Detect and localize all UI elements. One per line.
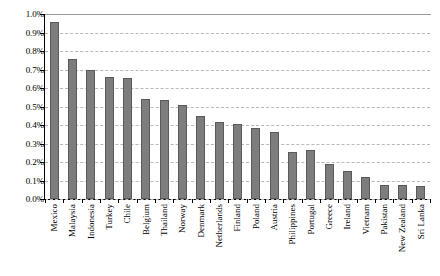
bar-slot xyxy=(192,14,210,199)
y-tick-label: 0.1% xyxy=(4,177,44,186)
x-axis-label: Turkey xyxy=(105,204,114,230)
x-axis-label: Mexico xyxy=(50,204,59,232)
x-tick-mark xyxy=(137,199,138,203)
y-tick-label: 0.7% xyxy=(4,66,44,75)
x-label-slot: Vietnam xyxy=(357,204,375,276)
x-tick-mark xyxy=(338,199,339,203)
bar-slot xyxy=(118,14,136,199)
bar-slot xyxy=(173,14,191,199)
bar-slot xyxy=(82,14,100,199)
bar-slot xyxy=(283,14,301,199)
x-label-slot: Austria xyxy=(265,204,283,276)
bar-slot xyxy=(155,14,173,199)
bar xyxy=(306,150,315,199)
bar xyxy=(251,128,260,199)
bar xyxy=(50,22,59,199)
y-tick-label: 0.4% xyxy=(4,121,44,130)
y-tick-label: 0.2% xyxy=(4,158,44,167)
bar xyxy=(361,177,370,199)
bar xyxy=(160,100,169,199)
x-tick-mark xyxy=(210,199,211,203)
bar xyxy=(233,124,242,199)
x-tick-mark xyxy=(412,199,413,203)
x-tick-mark xyxy=(320,199,321,203)
x-tick-mark xyxy=(430,199,431,203)
bar xyxy=(105,77,114,199)
bar-slot xyxy=(210,14,228,199)
x-label-slot: Chile xyxy=(118,204,136,276)
x-label-slot: Portugal xyxy=(302,204,320,276)
x-axis-label: Sri Lanka xyxy=(416,204,425,239)
x-axis-label: Chile xyxy=(123,204,132,224)
x-axis-label: Ireland xyxy=(343,204,352,229)
x-tick-mark xyxy=(45,199,46,203)
bar-slot xyxy=(320,14,338,199)
x-label-slot: Norway xyxy=(173,204,191,276)
x-tick-mark xyxy=(63,199,64,203)
x-axis-label: Norway xyxy=(178,204,187,233)
y-tick-label: 0.8% xyxy=(4,47,44,56)
bar-slot xyxy=(137,14,155,199)
y-tick-label: 0.3% xyxy=(4,140,44,149)
x-axis-label: New Zealand xyxy=(398,204,407,252)
y-tick-label: 0.9% xyxy=(4,29,44,38)
x-axis-labels: MexicoMalaysiaIndonesiaTurkeyChileBelgiu… xyxy=(45,204,430,276)
bar-chart: 1.0%0.9%0.8%0.7%0.6%0.5%0.4%0.3%0.2%0.1%… xyxy=(0,0,440,276)
bar-slot xyxy=(357,14,375,199)
x-label-slot: Malaysia xyxy=(63,204,81,276)
x-label-slot: Ireland xyxy=(338,204,356,276)
x-axis-label: Poland xyxy=(251,204,260,229)
bar-slot xyxy=(100,14,118,199)
bar-slot xyxy=(375,14,393,199)
x-axis-label: Denmark xyxy=(196,204,205,238)
bar-slot xyxy=(412,14,430,199)
x-label-slot: Finland xyxy=(228,204,246,276)
x-label-slot: Poland xyxy=(247,204,265,276)
bar xyxy=(196,116,205,199)
bar xyxy=(343,171,352,199)
bar xyxy=(178,105,187,199)
x-label-slot: Thailand xyxy=(155,204,173,276)
x-axis-label: Greece xyxy=(325,204,334,229)
bar-series xyxy=(45,14,430,199)
x-label-slot: Belgium xyxy=(137,204,155,276)
x-tick-mark xyxy=(82,199,83,203)
x-axis-label: Indonesia xyxy=(86,204,95,239)
x-tick-mark xyxy=(247,199,248,203)
x-tick-mark xyxy=(265,199,266,203)
bar-slot xyxy=(302,14,320,199)
bar-slot xyxy=(45,14,63,199)
x-label-slot: Indonesia xyxy=(82,204,100,276)
bar-slot xyxy=(393,14,411,199)
bar xyxy=(215,122,224,199)
x-tick-mark xyxy=(375,199,376,203)
x-tick-mark xyxy=(393,199,394,203)
x-label-slot: Greece xyxy=(320,204,338,276)
x-tick-mark xyxy=(302,199,303,203)
x-tick-mark xyxy=(155,199,156,203)
x-label-slot: Pakistan xyxy=(375,204,393,276)
x-axis-label: Philippines xyxy=(288,204,297,245)
x-axis-label: Austria xyxy=(270,204,279,231)
x-label-slot: Netherlands xyxy=(210,204,228,276)
bar xyxy=(270,132,279,199)
bar xyxy=(288,152,297,199)
y-tick-label: 1.0% xyxy=(4,10,44,19)
x-label-slot: Philippines xyxy=(283,204,301,276)
y-tick-label: 0.6% xyxy=(4,84,44,93)
x-tick-mark xyxy=(357,199,358,203)
bar xyxy=(416,186,425,199)
bar-slot xyxy=(247,14,265,199)
bar-slot xyxy=(63,14,81,199)
x-axis-label: Pakistan xyxy=(380,204,389,235)
x-label-slot: Sri Lanka xyxy=(412,204,430,276)
x-axis-label: Vietnam xyxy=(361,204,370,234)
bar xyxy=(380,185,389,199)
bar-slot xyxy=(228,14,246,199)
y-tick-label: 0.0% xyxy=(4,195,44,204)
bar xyxy=(123,78,132,199)
bar-slot xyxy=(338,14,356,199)
bar-slot xyxy=(265,14,283,199)
y-tick-label: 0.5% xyxy=(4,103,44,112)
x-tick-mark xyxy=(118,199,119,203)
